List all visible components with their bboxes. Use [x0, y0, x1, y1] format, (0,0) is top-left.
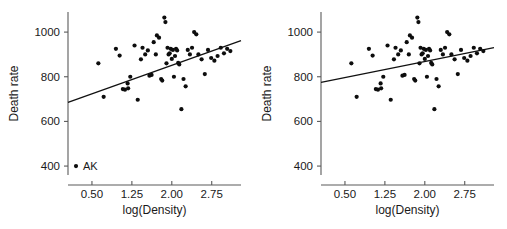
x-axis-tick-label: 2.75 [201, 188, 223, 200]
data-point [157, 36, 161, 40]
data-point [209, 56, 213, 60]
data-point [146, 48, 150, 52]
x-axis-tick-label: 1.25 [121, 188, 143, 200]
data-point [190, 46, 194, 50]
data-point [413, 78, 417, 82]
y-axis-title: Death rate [260, 65, 274, 121]
data-point [416, 20, 420, 24]
data-point [186, 48, 190, 52]
data-point [132, 43, 136, 47]
data-point [154, 52, 158, 56]
data-point [367, 47, 371, 51]
data-point [405, 40, 409, 44]
data-point [379, 81, 383, 85]
data-point [389, 98, 393, 102]
data-point [219, 46, 223, 50]
data-point [160, 78, 164, 82]
y-axis-tick-label: 600 [294, 115, 313, 127]
data-point [170, 57, 174, 61]
data-point [196, 52, 200, 56]
data-point [410, 36, 414, 40]
data-point [114, 47, 118, 51]
data-point [140, 46, 144, 50]
data-point [206, 48, 210, 52]
data-point [425, 75, 429, 79]
y-axis-title: Death rate [7, 65, 21, 121]
data-point [181, 77, 185, 81]
data-point [447, 32, 451, 36]
data-point [443, 46, 447, 50]
data-point [194, 32, 198, 36]
y-axis-tick-label: 800 [41, 71, 60, 83]
data-point [459, 48, 463, 52]
data-point [215, 54, 219, 58]
data-point [421, 51, 425, 55]
data-point [441, 52, 445, 56]
data-point [472, 46, 476, 50]
point-annotation-label: AK [83, 160, 98, 172]
data-point [175, 48, 179, 52]
chart-panel-left: 40060080010000.501.252.002.75log(Density… [0, 0, 253, 229]
data-point [407, 52, 411, 56]
data-point [468, 54, 472, 58]
data-point [402, 73, 406, 77]
data-point [188, 52, 192, 56]
data-point [212, 59, 216, 63]
data-point [139, 57, 143, 61]
data-point [437, 84, 441, 88]
data-point [102, 95, 106, 99]
data-point [355, 95, 359, 99]
x-axis-tick-label: 0.50 [81, 188, 103, 200]
data-point [456, 72, 460, 76]
data-point [379, 86, 383, 90]
data-point [465, 59, 469, 63]
y-axis-tick-label: 400 [41, 160, 60, 172]
data-point [74, 164, 78, 168]
y-axis-tick-label: 600 [41, 115, 60, 127]
data-point [203, 72, 207, 76]
data-point [222, 51, 226, 55]
data-point [462, 56, 466, 60]
data-point [162, 15, 166, 19]
data-point [184, 84, 188, 88]
x-axis-tick-label: 0.50 [334, 188, 356, 200]
data-point [381, 75, 385, 79]
data-point [430, 62, 434, 66]
data-point [453, 57, 457, 61]
x-axis-tick-label: 1.25 [374, 188, 396, 200]
data-point [349, 61, 353, 65]
y-axis-tick-label: 1000 [287, 26, 313, 38]
x-axis-title: log(Density) [375, 203, 439, 217]
data-point [417, 61, 421, 65]
data-point [118, 53, 122, 57]
data-point [172, 75, 176, 79]
chart-panel-right: 40060080010000.501.252.002.75log(Density… [253, 0, 506, 229]
data-point [439, 48, 443, 52]
data-point [96, 61, 100, 65]
x-axis-tick-label: 2.75 [454, 188, 476, 200]
data-point [143, 52, 147, 56]
data-point [423, 57, 427, 61]
data-point [399, 48, 403, 52]
data-point [168, 51, 172, 55]
data-point [173, 54, 177, 58]
x-axis-title: log(Density) [122, 203, 186, 217]
data-point [415, 15, 419, 19]
x-axis-tick-label: 2.00 [414, 188, 436, 200]
y-axis-tick-label: 400 [294, 160, 313, 172]
data-point [136, 98, 140, 102]
data-point [128, 75, 132, 79]
data-point [371, 53, 375, 57]
data-point [393, 46, 397, 50]
y-axis-tick-label: 1000 [34, 26, 60, 38]
data-point [163, 20, 167, 24]
data-point [126, 86, 130, 90]
data-point [126, 81, 130, 85]
data-point [396, 52, 400, 56]
figure-container: 40060080010000.501.252.002.75log(Density… [0, 0, 507, 229]
data-point [179, 107, 183, 111]
data-point [392, 57, 396, 61]
data-point [449, 52, 453, 56]
regression-line [68, 41, 241, 103]
data-point [428, 48, 432, 52]
